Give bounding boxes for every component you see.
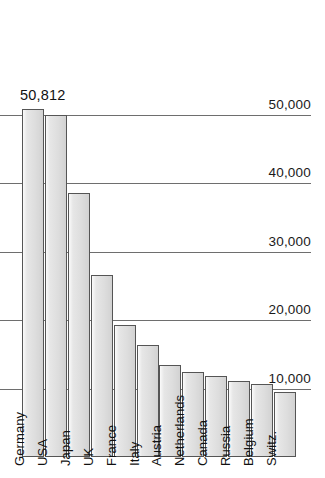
bar-uk[interactable] xyxy=(91,275,113,457)
bar-shading xyxy=(252,385,272,456)
bar-shading xyxy=(69,194,89,456)
bar-shading xyxy=(92,276,112,456)
bar-value-label-germany: 50,812 xyxy=(20,87,66,103)
bar-switz[interactable] xyxy=(274,392,296,457)
bar-shading xyxy=(275,393,295,456)
bar-belgium[interactable] xyxy=(251,384,273,457)
bar-shading xyxy=(46,116,66,457)
plot-area: GermanyUSAJapanUKFranceItalyAustriaNethe… xyxy=(0,0,325,478)
bar-netherlands[interactable] xyxy=(182,372,204,457)
bar-italy[interactable] xyxy=(137,345,159,457)
bar-usa[interactable] xyxy=(45,115,67,458)
bar-shading xyxy=(160,366,180,456)
bar-shading xyxy=(229,382,249,456)
bar-shading xyxy=(115,326,135,456)
bar-russia[interactable] xyxy=(228,381,250,457)
bar-germany[interactable] xyxy=(22,109,44,457)
bar-japan[interactable] xyxy=(68,193,90,457)
bar-shading xyxy=(138,346,158,456)
bar-austria[interactable] xyxy=(159,365,181,457)
bar-chart: 10,00020,00030,00040,00050,000 GermanyUS… xyxy=(0,0,325,478)
bar-shading xyxy=(23,110,43,456)
bar-shading xyxy=(183,373,203,456)
bar-france[interactable] xyxy=(114,325,136,457)
bar-canada[interactable] xyxy=(205,376,227,457)
bar-shading xyxy=(206,377,226,456)
